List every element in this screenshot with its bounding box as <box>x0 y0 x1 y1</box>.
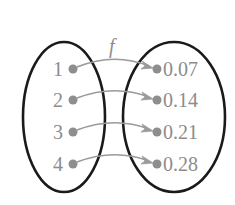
arrowhead-icon <box>141 92 153 100</box>
mapping-arrow-2 <box>77 91 153 100</box>
domain-element-dot <box>69 128 78 137</box>
mapping-arrow-4 <box>77 155 153 164</box>
codomain-element-label: 0.14 <box>163 89 198 111</box>
domain-set: 1 2 3 4 <box>23 42 105 192</box>
domain-element-label: 4 <box>53 153 63 175</box>
arrowhead-icon <box>141 156 153 164</box>
codomain-element-dot <box>153 65 162 74</box>
arrowhead-icon <box>141 124 153 132</box>
arrow-curve <box>77 123 149 130</box>
domain-element-dot <box>69 160 78 169</box>
mapping-arrow-3 <box>77 123 153 132</box>
function-mapping-diagram: f 1 2 3 4 0.07 0.14 0.21 0.28 <box>0 0 235 205</box>
domain-element-label: 3 <box>53 121 63 143</box>
codomain-element-label: 0.21 <box>163 121 198 143</box>
codomain-set: 0.07 0.14 0.21 0.28 <box>123 42 225 192</box>
arrow-curve <box>77 91 149 98</box>
codomain-element-label: 0.28 <box>163 153 198 175</box>
domain-element-label: 2 <box>53 89 63 111</box>
function-label: f <box>109 35 117 58</box>
domain-element-label: 1 <box>53 58 63 80</box>
codomain-element-dot <box>153 128 162 137</box>
arrow-curve <box>77 155 149 162</box>
arrowhead-icon <box>141 61 153 69</box>
mapping-arrows <box>77 59 153 164</box>
codomain-element-dot <box>153 96 162 105</box>
codomain-element-label: 0.07 <box>163 58 198 80</box>
domain-element-dot <box>69 65 78 74</box>
domain-ellipse <box>23 42 105 192</box>
codomain-element-dot <box>153 160 162 169</box>
domain-element-dot <box>69 96 78 105</box>
